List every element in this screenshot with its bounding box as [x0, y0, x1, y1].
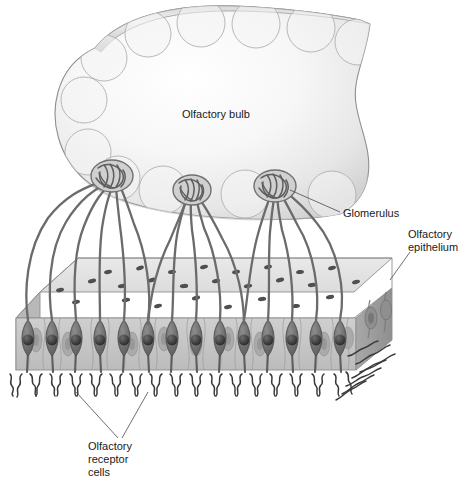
receptor-cells-leader-line-2: [122, 392, 148, 438]
glomerular-circle: [232, 0, 280, 48]
glomerular-circle: [177, 0, 225, 47]
receptor-cells-label-line2: receptor: [88, 453, 129, 465]
diagram-canvas: Olfactory bulb: [0, 0, 466, 480]
glomerular-circle: [81, 35, 127, 81]
glomerulus-tangle: [173, 175, 211, 205]
glomerular-circle: [335, 19, 381, 65]
glomerulus-tangle: [91, 160, 133, 192]
glomerular-circle: [61, 77, 107, 123]
epithelium-label-line1: Olfactory: [408, 228, 453, 240]
receptor-cells-label-line1: Olfactory: [88, 440, 133, 452]
glomerulus-tangle: [254, 170, 296, 202]
olfactory-epithelium-slab: [16, 258, 392, 370]
epithelium-label-line2: epithelium: [408, 241, 458, 253]
olfactory-diagram-figure: Olfactory bulb: [0, 0, 466, 480]
glomerular-circle: [125, 11, 171, 57]
receptor-cells-leader-line-1: [76, 392, 118, 438]
epithelium-leader-line: [390, 252, 410, 280]
receptor-cells-label-line3: cells: [88, 466, 111, 478]
olfactory-bulb-label: Olfactory bulb: [182, 108, 250, 120]
glomerular-circle: [287, 4, 335, 52]
glomerulus-label: Glomerulus: [343, 207, 400, 219]
